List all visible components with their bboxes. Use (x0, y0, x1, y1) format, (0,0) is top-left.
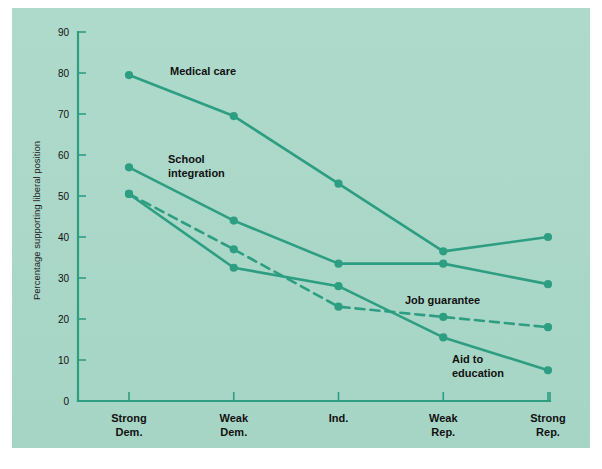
figure: 0102030405060708090 StrongDem.WeakDem.In… (0, 0, 602, 469)
data-point-marker (439, 333, 447, 341)
series-label-school-integration: School (168, 153, 205, 165)
x-category-label: Weak (429, 412, 458, 424)
x-axis (78, 392, 550, 401)
data-point-marker (334, 260, 342, 268)
data-point-marker (230, 264, 238, 272)
y-tick-label: 60 (58, 150, 70, 161)
y-tick-label: 30 (58, 273, 70, 284)
y-tick-label: 50 (58, 191, 70, 202)
line-chart: 0102030405060708090 StrongDem.WeakDem.In… (0, 0, 602, 469)
data-point-marker (334, 303, 342, 311)
data-point-marker (230, 217, 238, 225)
data-point-marker (230, 112, 238, 120)
series-label-job-guarantee: Job guarantee (405, 294, 480, 306)
data-series-group (125, 71, 552, 374)
x-category-label: Ind. (329, 412, 349, 424)
x-category-label: Rep. (536, 426, 560, 438)
data-point-marker (544, 366, 552, 374)
series-line (129, 194, 548, 370)
y-tick-label: 10 (58, 355, 70, 366)
y-tick-label: 90 (58, 27, 70, 38)
y-tick-label: 70 (58, 109, 70, 120)
data-point-marker (334, 180, 342, 188)
data-point-marker (334, 282, 342, 290)
x-axis-category-labels: StrongDem.WeakDem.Ind.WeakRep.StrongRep. (111, 412, 565, 438)
series-label-aid-to-education: education (452, 367, 504, 379)
x-category-label: Strong (111, 412, 146, 424)
y-axis (78, 32, 86, 401)
x-category-label: Strong (530, 412, 565, 424)
data-point-marker (125, 190, 133, 198)
y-tick-label: 40 (58, 232, 70, 243)
data-point-marker (125, 163, 133, 171)
y-axis-title: Percentage supporting liberal position (31, 141, 42, 300)
y-axis-tick-labels: 0102030405060708090 (58, 27, 70, 407)
x-category-label: Rep. (431, 426, 455, 438)
data-point-marker (544, 233, 552, 241)
data-point-marker (544, 280, 552, 288)
data-point-marker (439, 313, 447, 321)
y-tick-label: 20 (58, 314, 70, 325)
x-category-label: Dem. (220, 426, 247, 438)
x-category-label: Dem. (116, 426, 143, 438)
x-category-label: Weak (219, 412, 248, 424)
series-annotation-labels: Medical careSchoolintegrationJob guarant… (168, 65, 504, 379)
data-point-marker (439, 260, 447, 268)
y-tick-label: 80 (58, 68, 70, 79)
series-label-aid-to-education: Aid to (452, 353, 483, 365)
data-point-marker (125, 71, 133, 79)
data-point-marker (544, 323, 552, 331)
series-label-school-integration: integration (168, 167, 225, 179)
data-point-marker (439, 247, 447, 255)
series-aid-to-education (125, 190, 552, 375)
data-point-marker (230, 245, 238, 253)
series-label-medical-care: Medical care (170, 65, 236, 77)
y-tick-label: 0 (63, 396, 69, 407)
